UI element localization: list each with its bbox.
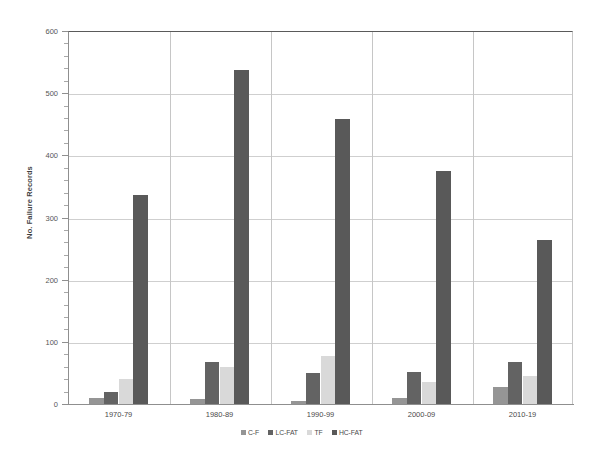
x-tick-label: 2010-19 — [509, 410, 537, 419]
bar-chart: No. Failure Records 0100200300400500600 … — [0, 0, 603, 452]
bar — [321, 356, 336, 404]
legend-swatch-icon — [268, 430, 273, 435]
bar — [493, 387, 508, 404]
x-tick-label: 1990-99 — [307, 410, 335, 419]
bar — [407, 372, 422, 404]
bar — [205, 362, 220, 404]
bar — [220, 367, 235, 404]
y-tick-label: 500 — [18, 89, 58, 98]
x-tick-label: 2000-09 — [408, 410, 436, 419]
y-tick-label: 300 — [18, 213, 58, 222]
legend-label: HC-FAT — [339, 429, 362, 436]
legend-swatch-icon — [241, 430, 246, 435]
chart-legend: C-FLC-FATTFHC-FAT — [0, 429, 603, 436]
legend-label: LC-FAT — [276, 429, 298, 436]
y-axis-title-text: No. Failure Records — [25, 166, 34, 239]
x-tick-label: 1970-79 — [105, 410, 133, 419]
bar — [537, 240, 552, 404]
legend-item[interactable]: TF — [307, 429, 323, 436]
legend-label: TF — [314, 429, 322, 436]
x-axis-line — [68, 404, 574, 405]
y-tick-label: 200 — [18, 275, 58, 284]
bar — [104, 392, 119, 404]
bar — [335, 119, 350, 404]
y-tick-label: 400 — [18, 151, 58, 160]
y-tick-label: 100 — [18, 337, 58, 346]
bar — [306, 373, 321, 404]
x-tick-label: 1980-89 — [206, 410, 234, 419]
legend-label: C-F — [248, 429, 259, 436]
bar — [436, 171, 451, 404]
bar — [119, 379, 134, 404]
legend-item[interactable]: LC-FAT — [268, 429, 298, 436]
bar — [422, 382, 437, 404]
legend-item[interactable]: C-F — [241, 429, 260, 436]
bar — [523, 376, 538, 404]
legend-swatch-icon — [307, 430, 312, 435]
bar — [133, 195, 148, 405]
bars-layer — [68, 31, 573, 404]
legend-swatch-icon — [332, 430, 337, 435]
y-tick-label: 600 — [18, 27, 58, 36]
bar — [508, 362, 523, 404]
legend-item[interactable]: HC-FAT — [332, 429, 363, 436]
y-tick-label: 0 — [18, 400, 58, 409]
bar — [234, 70, 249, 404]
